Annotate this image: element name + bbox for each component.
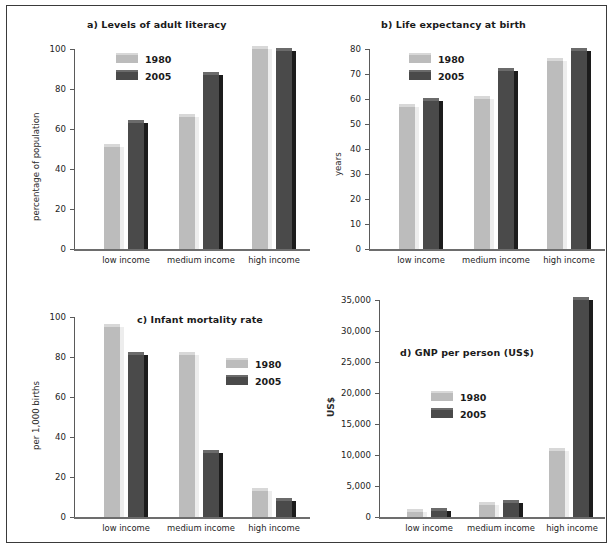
chart-d-ytick-35000: [375, 300, 379, 301]
chart-c-ytick-label-0: 0: [34, 512, 66, 522]
legend-swatch-2005-icon: [116, 72, 138, 80]
chart-b-ytick-label-0: 0: [333, 244, 361, 254]
legend-swatch-1980-icon: [226, 360, 248, 368]
chart-b-xtick-label-low: low income: [397, 255, 445, 265]
chart-d-ytick-label-0: 0: [327, 512, 371, 522]
chart-d-ytick-label-10000: 10,000: [327, 450, 371, 460]
chart-b-ytick-30: [365, 174, 369, 175]
chart-c-xtick-label-high: high income: [248, 523, 300, 533]
chart-a-ytick-label-80: 80: [34, 84, 66, 94]
chart-b-ytick-label-80: 80: [333, 44, 361, 54]
chart-c-ytick-100: [70, 317, 74, 318]
bar-a-medium-2005: [203, 75, 219, 249]
bar-b-medium-2005: [498, 71, 514, 249]
legend-swatch-2005-icon: [409, 72, 431, 80]
bar-b-high-1980: [547, 61, 563, 249]
chart-d-y-axis: [379, 300, 380, 517]
chart-panel-c: c) Infant mortality rate per 1,000 birth…: [7, 270, 307, 544]
chart-d-ylabel: US$: [326, 397, 336, 417]
chart-b-y-axis: [369, 49, 370, 249]
chart-a-ytick-40: [70, 169, 74, 170]
bar-d-low-1980: [407, 512, 423, 517]
chart-d-xtick-label-medium: medium income: [467, 523, 535, 533]
chart-b-ytick-label-20: 20: [333, 194, 361, 204]
bar-a-low-2005: [128, 123, 144, 249]
chart-d-legend: 1980 2005: [431, 390, 486, 424]
chart-a-ytick-60: [70, 129, 74, 130]
chart-b-ytick-label-50: 50: [333, 119, 361, 129]
chart-d-ytick-10000: [375, 455, 379, 456]
bar-d-low-2005: [431, 511, 447, 517]
legend-label-2005: 2005: [145, 71, 171, 82]
chart-c-ytick-20: [70, 477, 74, 478]
chart-a-ytick-label-40: 40: [34, 164, 66, 174]
bar-c-medium-2005: [203, 453, 219, 517]
bar-a-medium-1980: [179, 117, 195, 249]
bar-b-high-2005: [571, 51, 587, 249]
legend-swatch-1980-icon: [116, 55, 138, 63]
chart-b-ytick-0: [365, 249, 369, 250]
legend-label-2005: 2005: [438, 71, 464, 82]
chart-a-y-axis: [74, 49, 75, 249]
legend-item-1980: 1980: [116, 52, 171, 66]
legend-item-2005: 2005: [226, 374, 281, 388]
chart-panel-a: a) Levels of adult literacy percentage o…: [7, 6, 307, 270]
legend-item-1980: 1980: [431, 390, 486, 404]
chart-c-ytick-80: [70, 357, 74, 358]
chart-b-ytick-20: [365, 199, 369, 200]
legend-swatch-1980-icon: [409, 55, 431, 63]
chart-b-legend: 1980 2005: [409, 52, 464, 86]
chart-d-ytick-label-15000: 15,000: [327, 419, 371, 429]
chart-a-ytick-label-60: 60: [34, 124, 66, 134]
legend-label-2005: 2005: [255, 376, 281, 387]
chart-d-ytick-5000: [375, 486, 379, 487]
chart-b-title: b) Life expectancy at birth: [381, 19, 526, 30]
legend-item-2005: 2005: [116, 69, 171, 83]
chart-c-ytick-60: [70, 397, 74, 398]
chart-d-ytick-label-25000: 25,000: [327, 357, 371, 367]
chart-c-x-axis: [74, 517, 310, 519]
legend-item-2005: 2005: [431, 407, 486, 421]
chart-d-xtick-label-high: high income: [546, 523, 598, 533]
chart-a-xtick-label-medium: medium income: [167, 255, 235, 265]
chart-b-ytick-10: [365, 224, 369, 225]
chart-c-ytick-label-40: 40: [34, 432, 66, 442]
chart-b-ytick-70: [365, 74, 369, 75]
chart-a-ytick-100: [70, 49, 74, 50]
chart-c-ytick-label-20: 20: [34, 472, 66, 482]
chart-b-plot: 80 70 60 50 40 30 20 10 0 low income med…: [369, 49, 605, 249]
chart-a-xtick-label-low: low income: [102, 255, 150, 265]
bar-c-high-2005: [276, 501, 292, 517]
bar-d-high-1980: [549, 451, 565, 517]
chart-a-xtick-label-high: high income: [248, 255, 300, 265]
chart-b-ytick-label-10: 10: [333, 219, 361, 229]
chart-c-ytick-label-60: 60: [34, 392, 66, 402]
chart-a-ytick-0: [70, 249, 74, 250]
legend-swatch-2005-icon: [431, 410, 453, 418]
chart-d-ytick-label-20000: 20,000: [327, 388, 371, 398]
chart-a-legend: 1980 2005: [116, 52, 171, 86]
bar-a-high-2005: [276, 51, 292, 249]
bar-b-medium-1980: [474, 99, 490, 249]
legend-label-1980: 1980: [438, 54, 464, 65]
chart-b-xtick-label-medium: medium income: [462, 255, 530, 265]
chart-d-ytick-30000: [375, 331, 379, 332]
bar-a-low-1980: [104, 147, 120, 249]
chart-d-ytick-15000: [375, 424, 379, 425]
chart-a-ytick-80: [70, 89, 74, 90]
chart-a-ytick-label-20: 20: [34, 204, 66, 214]
legend-item-1980: 1980: [409, 52, 464, 66]
legend-swatch-1980-icon: [431, 393, 453, 401]
chart-a-x-axis: [74, 249, 310, 251]
chart-c-ytick-label-80: 80: [34, 352, 66, 362]
chart-b-x-axis: [369, 249, 605, 251]
figure-frame: a) Levels of adult literacy percentage o…: [6, 5, 607, 543]
bar-b-low-1980: [399, 107, 415, 249]
bar-d-medium-2005: [503, 503, 519, 517]
chart-d-ytick-0: [375, 517, 379, 518]
chart-d-plot: 35,000 30,000 25,000 20,000 15,000 10,00…: [379, 300, 605, 517]
legend-item-1980: 1980: [226, 357, 281, 371]
chart-c-xtick-label-low: low income: [102, 523, 150, 533]
chart-d-ytick-25000: [375, 362, 379, 363]
legend-swatch-2005-icon: [226, 377, 248, 385]
